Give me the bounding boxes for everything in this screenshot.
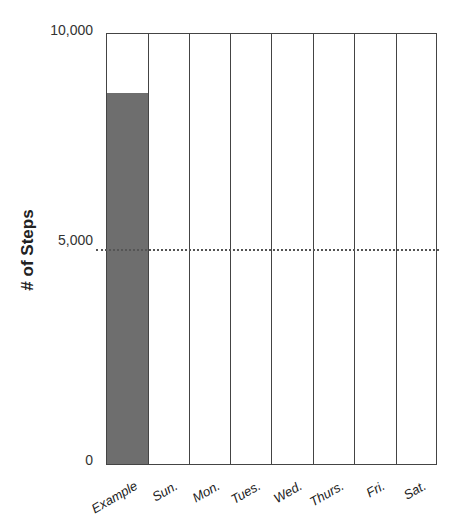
y-axis-label: # of Steps [18,200,38,300]
x-tick-mon: Mon. [190,478,223,505]
x-tick-sat: Sat. [401,478,429,503]
y-tick-5000: 5,000 [13,232,93,248]
x-tick-example: Example [89,478,140,516]
bar-example [107,93,148,464]
y-tick-0: 0 [13,452,93,468]
x-tick-thurs: Thurs. [307,478,346,509]
x-tick-fri: Fri. [364,478,388,500]
x-tick-tues: Tues. [229,478,264,507]
x-tick-sun: Sun. [150,478,181,504]
y-tick-10000: 10,000 [13,22,93,38]
x-tick-wed: Wed. [271,478,305,506]
reference-line-5000 [96,249,439,251]
